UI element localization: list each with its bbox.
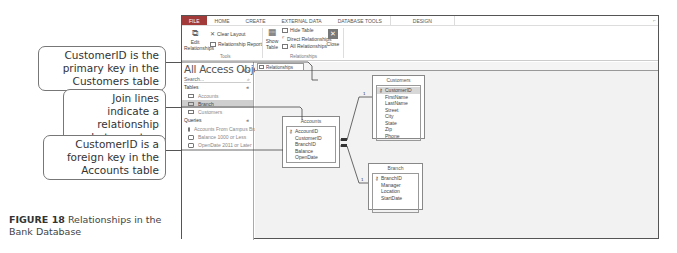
connector-join-lines <box>181 107 302 120</box>
connector-primary-key <box>181 62 318 80</box>
callout-connectors <box>0 0 677 253</box>
